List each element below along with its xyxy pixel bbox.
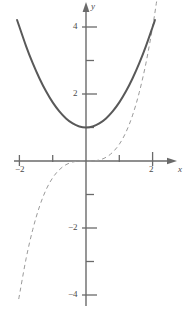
- y-tick-label--2: −2: [68, 223, 78, 232]
- x-axis-label: x: [178, 165, 182, 174]
- x-axis-arrowhead: [167, 158, 177, 164]
- curve-cubic-dashed: [19, 2, 157, 299]
- y-tick-label--4: −4: [68, 290, 78, 299]
- figure-container: y x −2 2 4 2 −2 −4: [0, 0, 187, 316]
- y-tick-label-2: 2: [73, 89, 78, 98]
- x-tick-label-2: 2: [149, 165, 154, 174]
- y-axis-label: y: [91, 2, 95, 11]
- y-axis-arrowhead: [83, 2, 90, 12]
- x-tick-label--2: −2: [15, 165, 25, 174]
- plot-area: [0, 0, 187, 316]
- y-tick-label-4: 4: [73, 22, 78, 31]
